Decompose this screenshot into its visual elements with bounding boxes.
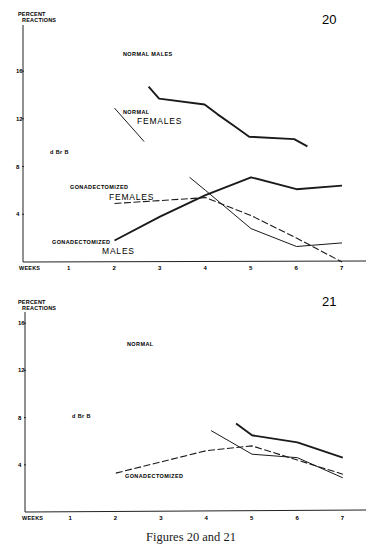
- x-tick-label: 1: [67, 265, 71, 271]
- x-axis-title: WEEKS: [19, 265, 40, 271]
- y-tick-label: 8: [16, 164, 20, 170]
- x-tick-label: 3: [159, 515, 163, 521]
- x-tick-label: 6: [295, 515, 299, 521]
- label-gonadectomized-males-1: GONADECTOMIZED: [52, 239, 110, 245]
- series-group: [116, 424, 343, 478]
- y-axis-title-line2: REACTIONS: [22, 17, 56, 23]
- label-gonadectomized-males-2: MALES: [102, 246, 135, 256]
- x-tick-label: 2: [114, 515, 118, 521]
- x-tick-label: 5: [249, 265, 253, 271]
- label-females: FEMALES: [137, 116, 182, 126]
- x-tick-label: 7: [341, 515, 345, 521]
- x-tick-label: 3: [158, 265, 162, 271]
- figure-number: 20: [322, 12, 336, 27]
- y-tick-label: 4: [18, 462, 22, 468]
- label-normal: NORMAL: [127, 341, 154, 347]
- x-tick-label: 6: [295, 265, 299, 271]
- y-axis-title-line2: REACTIONS: [22, 305, 56, 311]
- x-tick-label: 5: [250, 515, 254, 521]
- series-line-thick-solid: [236, 424, 343, 458]
- x-tick-label: 4: [204, 265, 208, 271]
- y-tick-label: 8: [18, 415, 22, 421]
- annotation-d-br-b: d Br B: [72, 413, 91, 419]
- annotation-d-br-b: d Br B: [50, 149, 69, 155]
- label-gonadectomized-females-2: FEMALES: [109, 192, 154, 202]
- figure-caption: Figures 20 and 21: [0, 530, 382, 545]
- figure-21: PERCENT REACTIONS 21 WEEKS 1234567481216…: [18, 294, 366, 521]
- figure-20: PERCENT REACTIONS 20 WEEKS 1234567481216…: [16, 11, 366, 271]
- figure-number: 21: [322, 294, 336, 309]
- x-axis-line: [25, 510, 366, 512]
- tick-labels: 1234567481216: [18, 320, 345, 521]
- x-tick-label: 1: [68, 515, 72, 521]
- x-axis-title: WEEKS: [22, 515, 43, 521]
- label-normal-males: NORMAL MALES: [123, 51, 173, 57]
- label-normal: NORMAL: [123, 109, 150, 115]
- y-tick-label: 4: [16, 211, 20, 217]
- x-tick-label: 2: [113, 265, 117, 271]
- figures-canvas: PERCENT REACTIONS 20 WEEKS 1234567481216…: [0, 0, 382, 556]
- x-tick-label: 4: [205, 515, 209, 521]
- x-tick-label: 7: [340, 265, 344, 271]
- x-axis-line: [23, 261, 366, 262]
- label-gonadectomized-females-1: GONADECTOMIZED: [70, 184, 128, 190]
- series-line-gonadectomized-females: [115, 198, 343, 262]
- series-line-gonadectomized: [116, 446, 343, 474]
- label-gonadectomized: GONADECTOMIZED: [125, 473, 183, 479]
